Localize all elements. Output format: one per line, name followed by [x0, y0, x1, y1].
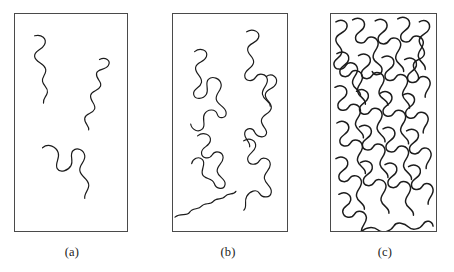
polymer-chain: [192, 134, 225, 189]
panel-a-chains: [15, 14, 127, 231]
polymer-chain: [245, 30, 271, 106]
polymer-chain: [403, 94, 429, 133]
polymer-chain: [405, 58, 431, 97]
polymer-chain: [334, 20, 361, 96]
polymer-chain: [175, 191, 236, 217]
panel-c-chains: [331, 14, 436, 231]
polymer-chain: [375, 19, 404, 71]
polymer-chain: [413, 21, 429, 80]
polymer-chain: [43, 146, 89, 199]
polymer-chain: [339, 193, 433, 231]
polymer-chain: [337, 121, 366, 173]
polymer-chain: [398, 17, 426, 69]
polymer-chain: [244, 139, 272, 210]
polymer-chain: [407, 129, 432, 168]
polymer-chain: [383, 127, 412, 179]
panel-b-chains: [173, 14, 287, 231]
polymer-chain: [35, 35, 48, 103]
caption-panel-b: (b): [198, 245, 258, 260]
polymer-chain: [409, 165, 434, 204]
polymer-chain: [85, 59, 109, 130]
panel-a-dilute: [14, 13, 128, 232]
figure-root: (a) (b) (c): [0, 0, 454, 272]
polymer-chain: [191, 49, 226, 130]
caption-panel-c: (c): [355, 245, 415, 260]
polymer-chain: [337, 52, 366, 104]
caption-panel-a: (a): [42, 245, 102, 260]
polymer-chain: [385, 163, 414, 215]
polymer-chain: [245, 75, 277, 147]
polymer-chain: [360, 161, 389, 213]
panel-b-semidilute: [172, 13, 288, 232]
panel-c-concentrated: [330, 13, 437, 232]
